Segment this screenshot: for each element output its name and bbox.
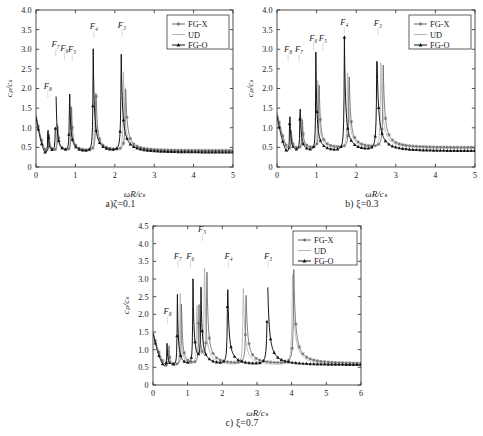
marker-asterisk <box>193 360 196 363</box>
marker-asterisk <box>333 145 336 148</box>
x-tick-label: 5 <box>473 171 477 180</box>
marker-asterisk <box>470 146 473 149</box>
marker-triangle <box>288 122 291 125</box>
legend-label-fg-x: FG-X <box>314 236 334 245</box>
peak-label: F₈ <box>43 81 52 91</box>
y-tick-label: 2.0 <box>262 84 272 93</box>
x-tick-label: 0 <box>34 171 38 180</box>
marker-asterisk <box>301 352 304 355</box>
y-tick-label: 0 <box>27 163 31 172</box>
x-tick-label: 6 <box>359 389 363 398</box>
peak-label: F₆ <box>185 251 194 261</box>
x-tick-label: 4 <box>290 389 294 398</box>
marker-asterisk <box>302 132 305 135</box>
subplot-panel-a: 01234500.51.01.52.02.53.03.54.0ωR/cₛcₚ/c… <box>0 0 241 209</box>
marker-asterisk <box>265 360 268 363</box>
marker-asterisk <box>435 145 438 148</box>
subplot-panel-b: 01234500.51.01.52.02.53.03.54.0ωR/cₛcₚ/c… <box>241 0 483 209</box>
y-axis-title: cₚ/cₛ <box>4 79 14 97</box>
peak-label: F₃ <box>373 18 382 28</box>
y-tick-label: 3.5 <box>138 257 148 266</box>
y-tick-label: 0.5 <box>262 143 272 152</box>
peak-label: F₇ <box>51 39 60 49</box>
marker-asterisk <box>226 360 229 363</box>
marker-triangle <box>380 132 383 135</box>
marker-asterisk <box>384 117 387 120</box>
y-tick-label: 4.5 <box>138 222 148 231</box>
marker-asterisk <box>312 358 315 361</box>
y-tick-label: 2.5 <box>21 65 31 74</box>
marker-asterisk <box>418 145 421 148</box>
peak-label: F₈ <box>283 44 292 54</box>
marker-asterisk <box>244 333 247 336</box>
svg-text:cₚ/cₛ: cₚ/cₛ <box>4 79 14 97</box>
figure-root: 01234500.51.01.52.02.53.03.54.0ωR/cₛcₚ/c… <box>0 0 483 436</box>
peak-label: F₆ <box>308 33 317 43</box>
marker-asterisk <box>247 342 250 345</box>
y-tick-label: 2.0 <box>21 84 31 93</box>
marker-asterisk <box>428 145 431 148</box>
y-tick-label: 3.5 <box>21 26 31 35</box>
legend-marker-asterisk <box>303 238 307 242</box>
peak-label: F₃ <box>117 20 126 30</box>
series-line-fg-o <box>277 37 475 151</box>
y-tick-label: 3.0 <box>262 45 272 54</box>
y-tick-label: 2.5 <box>138 293 148 302</box>
marker-asterisk <box>425 145 428 148</box>
peak-label: F₄ <box>89 21 98 31</box>
y-tick-label: 0.5 <box>138 363 148 372</box>
marker-asterisk <box>315 142 318 145</box>
y-tick-label: 0 <box>268 163 272 172</box>
legend-label-fg-o: FG-O <box>188 41 208 50</box>
marker-asterisk <box>294 323 297 326</box>
marker-asterisk <box>377 143 380 146</box>
marker-asterisk <box>197 322 200 325</box>
marker-asterisk <box>309 357 312 360</box>
marker-asterisk <box>204 341 207 344</box>
marker-asterisk <box>91 147 94 150</box>
peak-label: F₅ <box>318 33 327 43</box>
marker-asterisk <box>449 146 452 149</box>
x-axis-title: ωR/cₛ <box>124 189 146 199</box>
y-tick-label: 4.0 <box>138 240 148 249</box>
legend-label-ud: UD <box>314 247 326 256</box>
marker-asterisk <box>326 142 329 145</box>
marker-asterisk <box>280 361 283 364</box>
marker-asterisk <box>394 141 397 144</box>
legend-marker-asterisk <box>177 22 181 26</box>
x-tick-label: 1 <box>73 171 77 180</box>
peak-label: F₅ <box>197 224 206 234</box>
marker-triangle <box>118 129 121 132</box>
marker-triangle <box>265 320 268 323</box>
x-tick-label: 1 <box>186 389 190 398</box>
marker-asterisk <box>215 356 218 359</box>
marker-asterisk <box>305 143 308 146</box>
marker-triangle <box>374 134 377 137</box>
marker-asterisk <box>446 146 449 149</box>
x-axis-title: ωR/cₛ <box>365 189 387 199</box>
y-tick-label: 0 <box>144 381 148 390</box>
subplot-panel-c: 012345600.51.01.52.02.53.03.54.04.5ωR/cₛ… <box>113 216 371 428</box>
x-tick-label: 5 <box>324 389 328 398</box>
y-tick-label: 2.5 <box>262 65 272 74</box>
marker-asterisk <box>229 361 232 364</box>
y-axis-title: cₚ/cₛ <box>245 79 255 97</box>
marker-asterisk <box>398 142 401 145</box>
x-tick-label: 1 <box>315 171 319 180</box>
y-tick-label: 1.0 <box>21 124 31 133</box>
marker-asterisk <box>168 356 171 359</box>
marker-asterisk <box>329 144 332 147</box>
legend-label-fg-o: FG-O <box>430 41 450 50</box>
marker-asterisk <box>360 142 363 145</box>
marker-asterisk <box>208 337 211 340</box>
marker-asterisk <box>466 146 469 149</box>
marker-asterisk <box>459 146 462 149</box>
y-tick-label: 4.0 <box>21 6 31 15</box>
marker-asterisk <box>473 146 476 149</box>
marker-asterisk <box>201 350 204 353</box>
x-tick-label: 4 <box>433 171 437 180</box>
marker-asterisk <box>415 145 418 148</box>
marker-asterisk <box>432 145 435 148</box>
y-tick-label: 3.0 <box>138 275 148 284</box>
marker-asterisk <box>251 353 254 356</box>
